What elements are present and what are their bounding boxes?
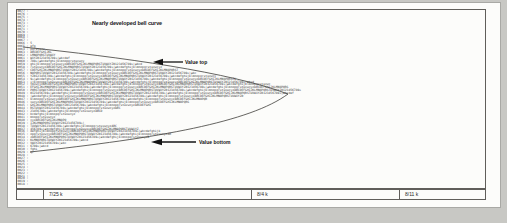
tpo-row: 0018 :: [18, 183, 302, 186]
tpo-histogram: 0077 : 0076 : 0075 : 0074 : 0073 : 0072 …: [18, 10, 302, 186]
footer-cell-date-2: 8/4 k: [251, 190, 399, 200]
footer-bar: 7/25 k 8/4 k 8/11 k: [16, 189, 486, 201]
value-top-label: Value top: [185, 59, 207, 65]
figure-title: Nearly developed bell curve: [92, 20, 162, 26]
value-bottom-label: Value bottom: [199, 139, 230, 145]
footer-cell-date-1: 7/25 k: [43, 190, 251, 200]
footer-cell-empty: [17, 190, 43, 200]
scanned-market-profile-figure: 0077 : 0076 : 0075 : 0074 : 0073 : 0072 …: [0, 0, 507, 223]
footer-cell-date-3: 8/11 k: [399, 190, 485, 200]
